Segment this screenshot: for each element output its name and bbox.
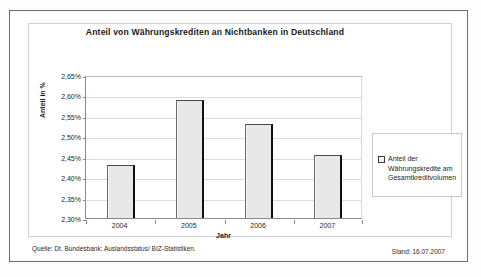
y-axis-tick xyxy=(83,77,86,78)
plot-area xyxy=(85,76,362,219)
y-axis-tick-label: 2,35% xyxy=(61,195,81,202)
legend-item[interactable]: Anteil der Währungskredite am Gesamtkred… xyxy=(378,154,462,183)
y-axis-tick xyxy=(83,159,86,160)
y-axis-tick xyxy=(83,97,86,98)
y-axis-tick-label: 2,45% xyxy=(61,154,81,161)
figure-outer-border: Anteil von Währungskrediten an Nichtbank… xyxy=(9,10,468,262)
bar[interactable] xyxy=(245,124,273,218)
chart-legend[interactable]: Anteil der Währungskredite am Gesamtkred… xyxy=(372,133,462,197)
gridline xyxy=(86,118,361,119)
chart-title: Anteil von Währungskrediten an Nichtbank… xyxy=(50,27,380,37)
y-axis-tick xyxy=(83,200,86,201)
legend-item-label: Anteil der Währungskredite am Gesamtkred… xyxy=(388,154,462,183)
gridline xyxy=(86,97,361,98)
y-axis-tick-labels: 2,65%2,60%2,55%2,50%2,45%2,40%2,35%2,30% xyxy=(48,76,81,219)
bar[interactable] xyxy=(314,155,342,218)
bar[interactable] xyxy=(176,100,204,218)
x-axis-tick-label: 2004 xyxy=(112,222,128,229)
y-axis-tick xyxy=(83,118,86,119)
x-axis-tick-label: 2005 xyxy=(181,222,197,229)
y-axis-tick-label: 2,60% xyxy=(61,93,81,100)
x-axis-tick-label: 2007 xyxy=(320,222,336,229)
y-axis-tick-label: 2,30% xyxy=(61,216,81,223)
y-axis-tick-label: 2,65% xyxy=(61,73,81,80)
x-axis-tick-label: 2006 xyxy=(250,222,266,229)
gridline xyxy=(86,138,361,139)
y-axis-title: Anteil in % xyxy=(39,82,46,118)
scanned-page: Anteil von Währungskrediten an Nichtbank… xyxy=(0,0,481,277)
x-axis-title: Jahr xyxy=(85,232,362,239)
y-axis-tick xyxy=(83,179,86,180)
status-date-note: Stand: 16.07.2007 xyxy=(392,248,445,255)
y-axis-tick-label: 2,40% xyxy=(61,175,81,182)
x-axis-tick xyxy=(362,220,363,224)
bar[interactable] xyxy=(107,165,135,218)
y-axis-tick-label: 2,50% xyxy=(61,134,81,141)
y-axis-tick-label: 2,55% xyxy=(61,113,81,120)
source-note: Quelle: Dt. Bundesbank: Auslandsstatus/ … xyxy=(32,245,196,252)
square-swatch-icon xyxy=(378,156,385,163)
y-axis-tick xyxy=(83,138,86,139)
